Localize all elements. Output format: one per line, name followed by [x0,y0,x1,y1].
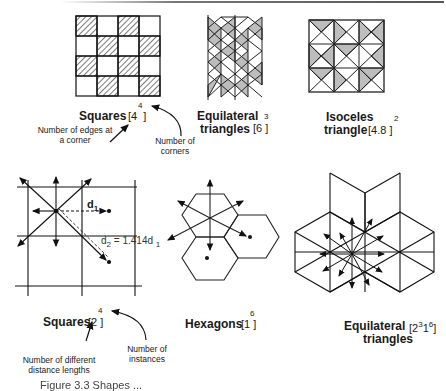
equilateral-label-line2: triangles [200,123,250,136]
squares-distance-notation: [2 ] [88,316,103,328]
squares-tessellation [76,16,160,96]
equilateral-notation: [6 ] [253,122,268,134]
hexagons-label: Hexagons [185,318,242,331]
figure-caption: Figure 3.3 Shapes ... [40,379,142,391]
isoceles-notation-sup: 2 [394,114,398,123]
hexagons-diagram [168,180,279,280]
isoceles-label-line2: triangle [324,124,367,137]
squares-label: Squares [79,110,126,123]
equilateral-distance-notation: [2316] [409,320,436,334]
equilateral-triangles-tessellation [208,15,262,100]
equilateral-triangles-distance-diagram [295,173,434,292]
squares-distance-label: Squares [43,316,90,329]
annotation-number-of-corners: Number of corners [150,136,200,156]
annotation-edges-at-corner: Number of edges at a corner [35,125,115,145]
isoceles-triangles-tessellation [309,20,384,92]
annotation-distance-lengths: Number of different distance lengths [18,355,100,375]
hexagons-notation-sup: 6 [250,309,254,318]
annotation-number-of-instances: Number of instances [126,344,168,364]
equilateral-notation-sup: 3 [264,112,268,121]
isoceles-notation: [4.8 ] [368,124,392,136]
hexagons-notation: [1 ] [241,318,256,330]
squares-notation-sup: 4 [138,101,142,110]
squares-distance-notation-sup: 4 [98,306,102,315]
d1-label: d1 [87,198,98,213]
equilateral-distance-label-line2: triangles [363,333,413,346]
squares-notation: [4 ] [128,110,146,122]
d2-equation: d2 = 1.414d 1 [101,235,160,249]
